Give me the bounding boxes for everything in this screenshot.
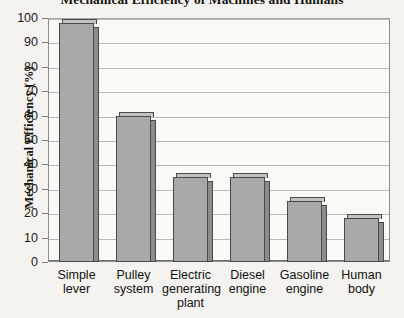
bar-slot — [59, 18, 93, 262]
bar-slot — [116, 18, 150, 262]
x-axis-tick-label: Pulleysystem — [105, 268, 162, 296]
chart-figure: Mechanical Efficiency of Machines and Hu… — [0, 0, 404, 318]
bar — [230, 177, 264, 262]
bar-slot — [230, 18, 264, 262]
x-axis-tick-label: Humanbody — [333, 268, 390, 296]
y-axis-tick-label: 20 — [0, 206, 38, 220]
chart-title: Mechanical Efficiency of Machines and Hu… — [0, 0, 404, 8]
y-axis-tick-label: 10 — [0, 231, 38, 245]
bar-series — [48, 18, 390, 262]
x-axis-tick-label: Electricgeneratingplant — [162, 268, 219, 310]
x-axis-tick-label: Gasolineengine — [276, 268, 333, 296]
bar — [287, 201, 321, 262]
bar — [116, 116, 150, 262]
bar-slot — [344, 18, 378, 262]
y-axis-tick-label: 30 — [0, 182, 38, 196]
y-axis-tick-label: 50 — [0, 133, 38, 147]
x-axis-tick-label: Simplelever — [48, 268, 105, 296]
bar — [59, 23, 93, 262]
y-axis-tick — [42, 262, 48, 263]
y-axis-tick-label: 90 — [0, 35, 38, 49]
y-axis-tick-label: 60 — [0, 109, 38, 123]
y-axis-tick-label: 40 — [0, 157, 38, 171]
x-axis-tick-label: Dieselengine — [219, 268, 276, 296]
bar-slot — [287, 18, 321, 262]
bar — [173, 177, 207, 262]
y-axis-tick-label: 0 — [0, 255, 38, 269]
y-axis-tick-label: 70 — [0, 84, 38, 98]
x-axis-tick-labels: SimpleleverPulleysystemElectricgeneratin… — [48, 268, 390, 318]
bar-slot — [173, 18, 207, 262]
bar — [344, 218, 378, 262]
y-axis-tick-label: 100 — [0, 11, 38, 25]
y-axis-tick-label: 80 — [0, 60, 38, 74]
